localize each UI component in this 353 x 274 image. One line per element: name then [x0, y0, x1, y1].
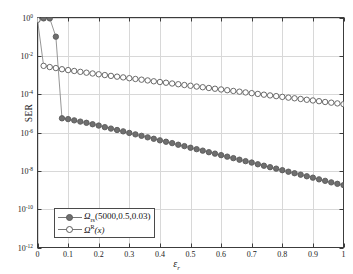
data-point-marker — [292, 171, 297, 176]
x-tick-label: 0 — [36, 250, 40, 259]
chart-canvas — [0, 0, 353, 274]
data-point-marker — [243, 158, 248, 163]
data-point-marker — [212, 86, 217, 91]
data-point-marker — [206, 149, 211, 154]
data-point-marker — [316, 177, 321, 182]
data-point-marker — [78, 69, 83, 74]
data-point-marker — [151, 79, 156, 84]
legend-label-omega-rs-args: (5000,0.5,0.03) — [95, 211, 151, 221]
data-point-marker — [304, 97, 309, 102]
legend-item-omega-rs[interactable]: Ωrs(5000,0.5,0.03) — [58, 211, 150, 223]
x-tick-label: 0.7 — [247, 250, 257, 259]
data-point-marker — [188, 145, 193, 150]
data-point-marker — [53, 65, 58, 70]
data-point-marker — [114, 74, 119, 79]
data-point-marker — [225, 154, 230, 159]
data-point-marker — [108, 126, 113, 131]
x-tick-label: 0.3 — [124, 250, 134, 259]
y-tick-exponent: 0 — [30, 12, 33, 18]
data-point-marker — [145, 78, 150, 83]
y-tick-exponent: -2 — [28, 50, 33, 56]
x-axis-label: εr — [0, 258, 353, 271]
x-tick-label: 0.5 — [186, 250, 196, 259]
data-point-marker — [59, 67, 64, 72]
figure-container: SER εr 10010-210-410-610-810-1010-12 00.… — [0, 0, 353, 274]
data-point-marker — [231, 88, 236, 93]
data-point-marker — [84, 120, 89, 125]
data-point-marker — [65, 116, 70, 121]
data-point-marker — [341, 182, 346, 187]
data-point-marker — [151, 136, 156, 141]
data-point-marker — [59, 116, 64, 121]
y-tick-exponent: -4 — [28, 89, 33, 95]
data-point-marker — [78, 119, 83, 124]
legend-label-omega-r-args: (x) — [95, 225, 105, 235]
y-tick-mantissa: 10 — [18, 206, 26, 215]
data-point-marker — [273, 166, 278, 171]
data-point-marker — [322, 99, 327, 104]
y-tick-exponent: -6 — [28, 127, 33, 133]
data-point-marker — [127, 76, 132, 81]
data-point-marker — [212, 151, 217, 156]
data-point-marker — [292, 96, 297, 101]
data-point-marker — [200, 85, 205, 90]
data-point-marker — [41, 63, 46, 68]
data-point-marker — [41, 16, 46, 21]
x-tick-label: 1 — [342, 250, 346, 259]
data-point-marker — [102, 124, 107, 129]
y-tick-label: 100 — [0, 12, 33, 23]
legend-label-omega-rs: Ωrs(5000,0.5,0.03) — [82, 211, 150, 223]
data-point-marker — [200, 148, 205, 153]
data-point-marker — [218, 152, 223, 157]
data-point-marker — [84, 70, 89, 75]
data-point-marker — [249, 90, 254, 95]
data-point-marker — [335, 101, 340, 106]
data-point-marker — [310, 175, 315, 180]
x-tick-label: 0.1 — [63, 250, 73, 259]
data-point-marker — [120, 129, 125, 134]
data-point-marker — [194, 84, 199, 89]
data-point-marker — [231, 155, 236, 160]
data-point-marker — [139, 133, 144, 138]
y-tick-label: 10-10 — [0, 204, 33, 215]
y-tick-label: 10-12 — [0, 242, 33, 253]
y-tick-exponent: -12 — [26, 242, 33, 248]
data-point-marker — [286, 169, 291, 174]
data-point-marker — [157, 79, 162, 84]
data-point-marker — [188, 83, 193, 88]
data-point-marker — [243, 90, 248, 95]
x-tick-label: 0.4 — [155, 250, 165, 259]
legend[interactable]: Ωrs(5000,0.5,0.03) ΩR(x) — [54, 208, 155, 238]
data-point-marker — [341, 101, 346, 106]
data-point-marker — [286, 95, 291, 100]
x-axis-label-sub: r — [177, 264, 180, 271]
data-point-marker — [298, 172, 303, 177]
data-point-marker — [163, 139, 168, 144]
data-point-marker — [90, 122, 95, 127]
data-point-marker — [267, 164, 272, 169]
data-point-marker — [280, 94, 285, 99]
data-point-marker — [102, 72, 107, 77]
data-point-marker — [255, 162, 260, 167]
y-tick-exponent: -10 — [26, 204, 33, 210]
data-point-marker — [310, 98, 315, 103]
x-tick-label: 0.9 — [308, 250, 318, 259]
data-point-marker — [273, 93, 278, 98]
data-point-marker — [304, 174, 309, 179]
data-point-marker — [145, 135, 150, 140]
data-point-marker — [47, 64, 52, 69]
data-point-marker — [47, 16, 52, 21]
series-omega-r — [35, 17, 346, 107]
data-point-marker — [316, 98, 321, 103]
data-point-marker — [261, 92, 266, 97]
data-point-marker — [237, 89, 242, 94]
data-point-marker — [261, 163, 266, 168]
y-tick-label: 10-8 — [0, 165, 33, 176]
data-point-marker — [96, 72, 101, 77]
data-series-layer — [35, 16, 346, 188]
legend-item-omega-r[interactable]: ΩR(x) — [58, 223, 150, 235]
data-point-marker — [322, 178, 327, 183]
data-point-marker — [72, 68, 77, 73]
data-point-marker — [127, 130, 132, 135]
data-point-marker — [157, 138, 162, 143]
